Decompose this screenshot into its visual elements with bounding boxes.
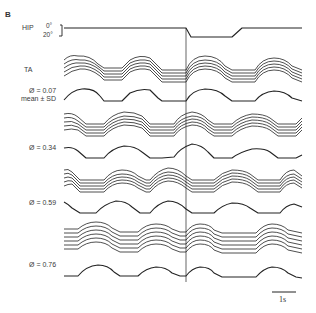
hip-trace xyxy=(64,28,302,37)
mean-trace-4 xyxy=(64,265,302,278)
ta-sweeps-4 xyxy=(64,222,302,253)
ta-sweeps-1 xyxy=(64,56,302,83)
scale-bar-label: 1s xyxy=(279,295,286,304)
hip-scale-bracket xyxy=(59,25,62,36)
mean-trace-1 xyxy=(64,89,302,101)
ta-sweeps-2 xyxy=(64,112,302,136)
mean-trace-2 xyxy=(64,144,302,158)
mean-trace-3 xyxy=(64,201,302,213)
ta-sweeps-3 xyxy=(64,168,302,192)
figure-traces xyxy=(0,0,316,313)
